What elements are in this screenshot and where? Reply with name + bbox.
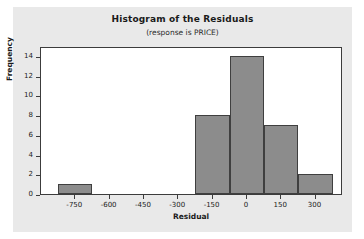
x-axis-tick-mark [246, 195, 247, 199]
chart-title: Histogram of the Residuals [13, 14, 352, 24]
x-axis-tick-mark [315, 195, 316, 199]
histogram-bar [298, 174, 332, 194]
y-axis-label: Frequency [5, 37, 14, 81]
y-axis-tick-label: 0 [29, 190, 33, 198]
chart-page: Histogram of the Residuals (response is … [0, 0, 364, 239]
y-axis-tick-label: 6 [29, 131, 33, 139]
histogram-bar [264, 125, 298, 194]
x-axis-tick-mark [280, 195, 281, 199]
x-axis-tick-mark [74, 195, 75, 199]
y-axis-tick-label: 14 [24, 52, 33, 60]
plot-area [40, 47, 342, 195]
histogram-bar [58, 184, 92, 194]
x-axis-tick-mark [177, 195, 178, 199]
x-axis-tick-mark [212, 195, 213, 199]
x-axis-tick-mark [143, 195, 144, 199]
histogram-bar [230, 56, 264, 194]
histogram-bars [41, 48, 341, 194]
y-axis-tick-label: 12 [24, 72, 33, 80]
histogram-bar [195, 115, 229, 194]
x-axis-label: Residual [40, 212, 342, 221]
figure-panel: Histogram of the Residuals (response is … [13, 7, 352, 232]
y-axis-tick-label: 4 [29, 151, 33, 159]
y-axis-tick-label: 2 [29, 170, 33, 178]
y-axis-tick-mark [36, 195, 40, 196]
y-axis-tick-label: 8 [29, 111, 33, 119]
y-axis-tick-label: 10 [24, 91, 33, 99]
chart-subtitle: (response is PRICE) [13, 28, 352, 37]
x-axis-tick-mark [109, 195, 110, 199]
x-axis-tick-label: 300 [295, 201, 335, 209]
